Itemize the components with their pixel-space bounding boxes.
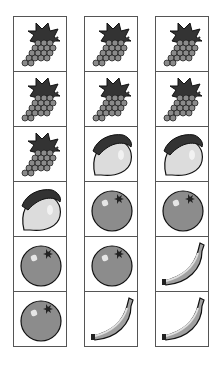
- fruit-cell-lemon: [155, 127, 209, 182]
- fruit-cell-banana: [155, 237, 209, 292]
- fruit-cell-grapes: [84, 16, 138, 72]
- fruit-cell-grapes: [155, 16, 209, 72]
- fruit-cell-orange: [84, 237, 138, 292]
- fruit-cell-orange: [84, 182, 138, 237]
- lemon-icon: [158, 129, 208, 179]
- banana-icon: [158, 239, 208, 289]
- fruit-cell-orange: [155, 182, 209, 237]
- fruit-cell-banana: [155, 292, 209, 347]
- fruit-cell-grapes: [13, 72, 67, 127]
- fruit-cell-lemon: [13, 182, 67, 237]
- grapes-icon: [87, 19, 137, 69]
- fruit-cell-grapes: [155, 72, 209, 127]
- orange-icon: [87, 239, 137, 289]
- grapes-icon: [16, 74, 66, 124]
- grapes-icon: [87, 74, 137, 124]
- orange-icon: [158, 184, 208, 234]
- orange-icon: [16, 239, 66, 289]
- grapes-icon: [158, 19, 208, 69]
- fruit-cell-orange: [13, 237, 67, 292]
- fruit-cell-banana: [84, 292, 138, 347]
- fruit-column-1: [13, 16, 67, 347]
- fruit-cell-grapes: [13, 16, 67, 72]
- fruit-cell-grapes: [13, 127, 67, 182]
- fruit-column-3: [155, 16, 209, 347]
- grapes-icon: [16, 19, 66, 69]
- banana-icon: [87, 294, 137, 344]
- orange-icon: [87, 184, 137, 234]
- lemon-icon: [16, 184, 66, 234]
- fruit-cell-grapes: [84, 72, 138, 127]
- fruit-cell-orange: [13, 292, 67, 347]
- banana-icon: [158, 294, 208, 344]
- fruit-column-2: [84, 16, 138, 347]
- lemon-icon: [87, 129, 137, 179]
- fruit-cell-lemon: [84, 127, 138, 182]
- grapes-icon: [16, 129, 66, 179]
- orange-icon: [16, 294, 66, 344]
- grapes-icon: [158, 74, 208, 124]
